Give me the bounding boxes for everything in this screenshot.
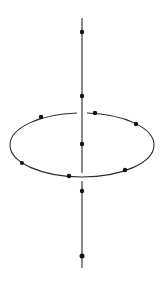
axis-point-4 [80,254,85,259]
axis-point-2 [80,142,84,146]
ring-back-arc-right [87,113,154,145]
ring-point-1 [93,111,97,115]
ring-point-3 [20,161,24,165]
ring-axis-diagram [0,0,164,282]
ring-back-arc-left [10,113,77,145]
axis-point-3 [80,189,84,193]
ring-point-4 [67,174,71,178]
axis-point-1 [80,94,84,98]
ring-point-0 [39,115,43,119]
ring-points [20,111,138,178]
ring-point-5 [123,168,127,172]
ring-point-2 [134,122,138,126]
axis-point-0 [80,30,84,34]
